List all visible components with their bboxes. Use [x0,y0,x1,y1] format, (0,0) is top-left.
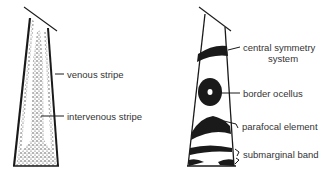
venous-stripe-label: venous stripe [67,69,124,80]
submarginal-brace [235,149,239,164]
left-venous-border [14,18,30,166]
submarginal-band-upper [190,146,232,156]
left-wing-cell [13,7,64,166]
parafocal-element-label: parafocal element [242,121,318,132]
intervenous-stripe-label: intervenous stripe [67,111,142,122]
submarginal-band-lower-left [189,159,204,166]
submarginal-band-lower-right [218,159,234,166]
submarginal-band-label: submarginal band [243,149,319,160]
central-symmetry-label-line1: central symmetry [243,42,315,53]
ocellus-pupil [208,89,213,95]
parafocal-element-shape [191,116,231,140]
central-symmetry-leader [228,47,240,50]
central-symmetry-label-line2: system [243,53,323,64]
right-wing-cell [187,7,240,166]
border-ocellus-label: border ocellus [243,88,303,99]
